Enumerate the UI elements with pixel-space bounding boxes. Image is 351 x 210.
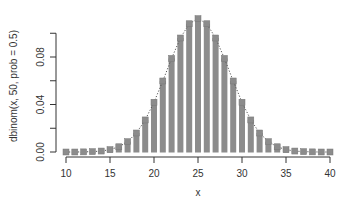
point-marker [274,144,280,150]
point-marker [186,21,192,27]
point-marker [292,148,298,154]
point-marker [195,16,201,22]
point-marker [107,147,113,153]
point-marker [177,35,183,41]
point-marker [204,21,210,27]
x-tick-label: 20 [148,168,160,179]
bar [151,102,157,152]
point-marker [72,149,78,155]
y-axis: 0.000.040.08 [35,33,56,161]
bar [177,38,183,153]
bar [195,19,201,153]
bar [160,81,166,153]
y-tick-label: 0.08 [35,47,46,67]
x-axis: 10152025303540 [60,157,336,179]
point-marker [125,139,131,145]
y-tick-label: 0.04 [35,94,46,114]
point-marker [142,117,148,123]
bar [186,24,192,153]
y-tick-label: 0.00 [35,142,46,162]
binomial-chart: 0.000.040.08 10152025303540 x dbinom(x, … [0,0,351,210]
x-tick-label: 10 [60,168,72,179]
bar [213,38,219,153]
point-marker [309,149,315,155]
bar [248,120,254,153]
x-tick-label: 35 [280,168,292,179]
point-marker [239,99,245,105]
point-marker [230,78,236,84]
bar [221,58,227,152]
point-marker [160,78,166,84]
bar [239,102,245,152]
point-marker [98,148,104,154]
point-marker [283,147,289,153]
point-marker [248,117,254,123]
point-marker [81,149,87,155]
x-tick-label: 25 [192,168,204,179]
bar [142,120,148,153]
point-marker [257,130,263,136]
point-marker [265,139,271,145]
x-tick-label: 15 [104,168,116,179]
y-axis-title: dbinom(x, 50, prob = 0.5) [8,30,19,142]
point-marker [221,55,227,61]
point-marker [169,55,175,61]
bar [204,24,210,153]
point-marker [89,149,95,155]
point-marker [318,149,324,155]
point-marker [133,130,139,136]
bar [169,58,175,152]
point-marker [63,149,69,155]
x-tick-label: 30 [236,168,248,179]
point-marker [116,144,122,150]
x-tick-label: 40 [324,168,336,179]
point-marker [327,149,333,155]
bar [230,81,236,153]
point-marker [301,149,307,155]
point-marker [213,35,219,41]
bars-group [63,19,333,153]
point-marker [151,99,157,105]
x-axis-title: x [196,187,201,198]
